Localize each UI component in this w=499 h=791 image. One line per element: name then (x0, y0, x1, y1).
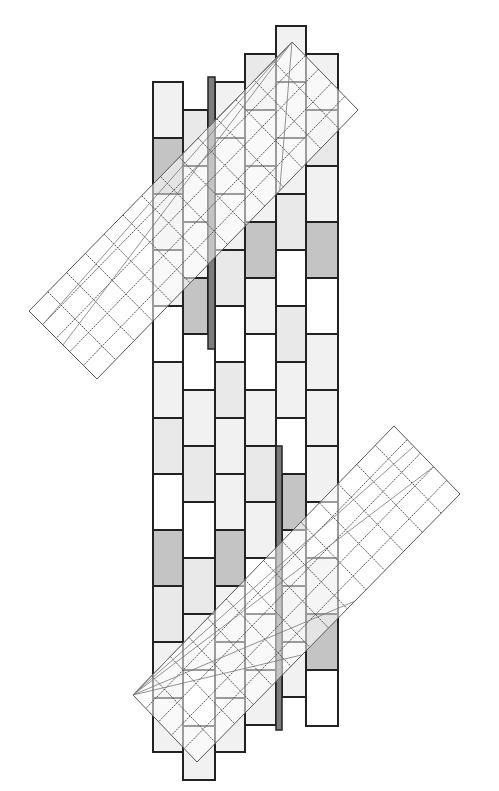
block (153, 474, 183, 530)
block (215, 306, 245, 362)
block (306, 222, 338, 278)
block (245, 390, 276, 446)
block (276, 362, 306, 418)
block (153, 530, 183, 586)
block (153, 418, 183, 474)
diagram-canvas (0, 0, 499, 791)
block (306, 390, 338, 446)
block (245, 222, 276, 278)
block (215, 474, 245, 530)
block (153, 586, 183, 642)
block (153, 82, 183, 138)
block (183, 446, 215, 502)
block (215, 418, 245, 474)
block (215, 250, 245, 306)
block (276, 306, 306, 362)
block (183, 558, 215, 614)
block (276, 250, 306, 306)
block (306, 334, 338, 390)
block (215, 530, 245, 586)
block (245, 278, 276, 334)
block (306, 166, 338, 222)
block (153, 362, 183, 418)
block (183, 390, 215, 446)
block (215, 362, 245, 418)
block (183, 502, 215, 558)
block (276, 194, 306, 250)
block (245, 502, 276, 558)
block (245, 446, 276, 502)
block (306, 278, 338, 334)
block (306, 670, 338, 726)
block (245, 334, 276, 390)
